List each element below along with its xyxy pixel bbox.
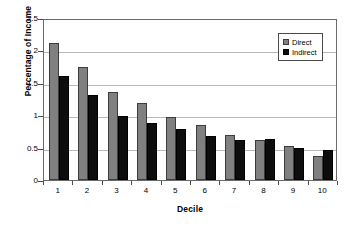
bar-indirect (118, 116, 128, 180)
x-axis-tick-label: 4 (134, 186, 158, 196)
x-axis-tick-mark (131, 181, 132, 185)
x-axis-tick-label: 1 (46, 186, 70, 196)
bar-indirect (59, 76, 69, 180)
y-axis-tick-label: 0.5 (16, 145, 38, 153)
bar-direct (225, 135, 235, 180)
bar-group (49, 20, 69, 180)
y-axis-tick-label: 2 (16, 47, 38, 55)
bar-indirect (235, 140, 245, 180)
y-axis-tick-labels: 00.511.522.5 (16, 19, 38, 181)
legend-item-direct: Direct (283, 37, 317, 47)
x-axis-tick-mark (102, 181, 103, 185)
x-axis-tick-label: 6 (193, 186, 217, 196)
bar-group (255, 20, 275, 180)
x-axis-tick-mark (190, 181, 191, 185)
y-axis-tick-label: 1.5 (16, 80, 38, 88)
bar-indirect (147, 123, 157, 180)
x-axis-tick-label: 3 (105, 186, 129, 196)
x-axis-tick-label: 8 (252, 186, 276, 196)
x-axis-tick-label: 5 (163, 186, 187, 196)
bar-direct (78, 67, 88, 180)
legend-label-indirect: Indirect (292, 48, 317, 57)
x-axis-title: Decile (43, 204, 337, 214)
y-axis-tick-label: 0 (16, 177, 38, 185)
legend-item-indirect: Indirect (283, 47, 317, 57)
x-axis-tick-mark (308, 181, 309, 185)
bar-group (137, 20, 157, 180)
legend-swatch-direct-icon (283, 39, 289, 45)
bar-indirect (176, 129, 186, 180)
y-axis-tick-label: 2.5 (16, 15, 38, 23)
x-axis-tick-mark (43, 181, 44, 185)
chart-legend: Direct Indirect (278, 33, 323, 61)
x-axis-tick-mark (278, 181, 279, 185)
bar-group (225, 20, 245, 180)
x-axis-tick-marks (43, 181, 337, 185)
bar-indirect (323, 150, 333, 180)
bar-chart-figure: Percentage of Income 00.511.522.5 123456… (0, 0, 355, 229)
bar-direct (166, 117, 176, 180)
legend-label-direct: Direct (292, 38, 312, 47)
x-axis-tick-label: 7 (222, 186, 246, 196)
bar-group (108, 20, 128, 180)
x-axis-tick-mark (337, 181, 338, 185)
bar-group (196, 20, 216, 180)
x-axis-tick-mark (72, 181, 73, 185)
bar-indirect (206, 136, 216, 180)
x-axis-tick-label: 9 (281, 186, 305, 196)
bar-direct (255, 140, 265, 180)
x-axis-tick-label: 2 (75, 186, 99, 196)
bar-group (166, 20, 186, 180)
bar-direct (108, 92, 118, 180)
x-axis-tick-mark (219, 181, 220, 185)
x-axis-tick-labels: 12345678910 (43, 186, 337, 198)
bar-indirect (294, 148, 304, 180)
bar-indirect (88, 95, 98, 180)
bar-direct (49, 43, 59, 180)
x-axis-tick-label: 10 (310, 186, 334, 196)
bar-direct (137, 103, 147, 180)
x-axis-tick-mark (161, 181, 162, 185)
x-axis-tick-mark (249, 181, 250, 185)
bar-indirect (265, 139, 275, 180)
y-axis-tick-label: 1 (16, 112, 38, 120)
bar-direct (284, 146, 294, 180)
bar-direct (196, 125, 206, 180)
bar-direct (313, 156, 323, 180)
bar-group (78, 20, 98, 180)
legend-swatch-indirect-icon (283, 49, 289, 55)
